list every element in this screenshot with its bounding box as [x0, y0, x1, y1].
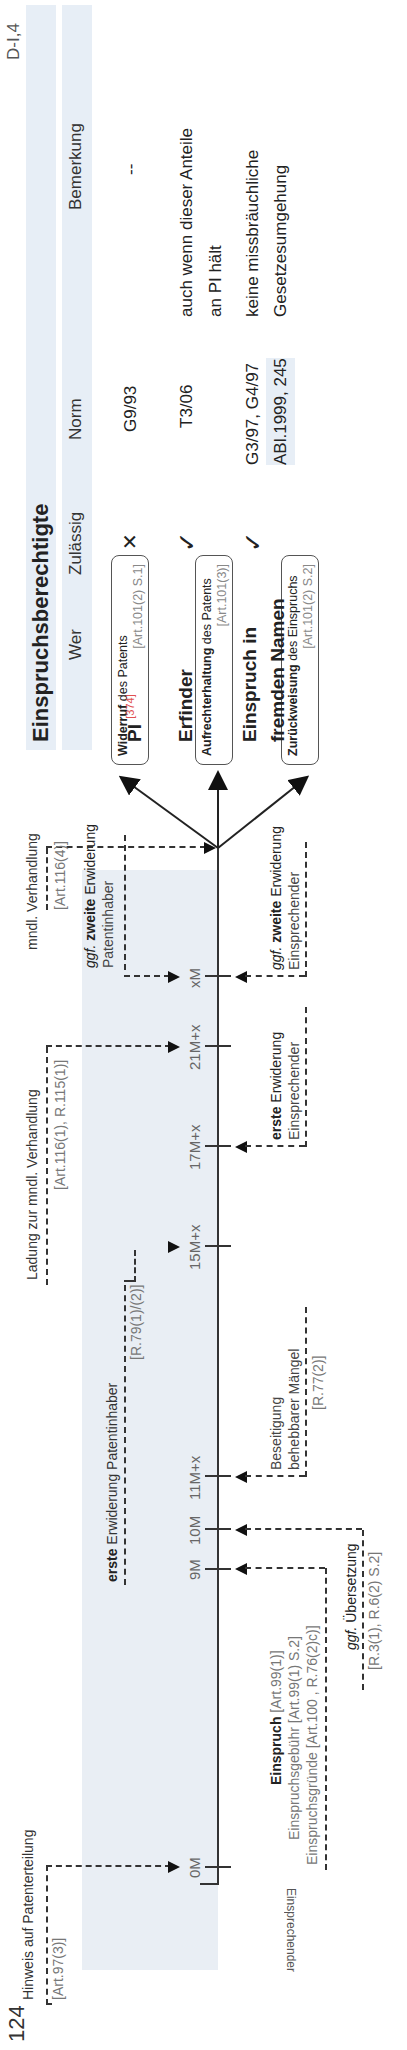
norm-cell: G3/97, G4/97: [238, 363, 267, 465]
header-wer: Wer: [66, 629, 86, 660]
page-number: 124: [4, 2005, 30, 2042]
hinweis-title: Hinweis auf Patenterteilung: [20, 1830, 37, 2000]
connector: [245, 1567, 325, 1569]
norm-cell-line2: ABl.1999, 245: [266, 358, 295, 465]
timeline-axis: [217, 847, 219, 1885]
ladung-title: Ladung zur mndl. Verhandlung: [24, 1089, 41, 1280]
arrow-up-icon: [235, 1524, 247, 1536]
arrow-up-icon: [235, 1141, 247, 1153]
arrow-down-icon: [168, 1041, 180, 1053]
connector: [46, 1865, 171, 1867]
table-row-pi: PI [374]: [116, 694, 149, 742]
lane-label-einsprechender: Einsprechender: [284, 1888, 298, 1972]
connector: [124, 1280, 134, 1282]
tick-15m: [205, 1245, 231, 1247]
checkmark-icon: ✓: [172, 532, 201, 552]
uebersetzung: ggf. Übersetzung: [343, 1543, 360, 1650]
connector: [245, 975, 305, 977]
tick-label: 10M: [186, 1516, 203, 1545]
connector: [305, 1307, 307, 1477]
timeline-start: [200, 1883, 218, 1885]
table-row-fremder-name-line2: fremden Namen: [264, 598, 292, 742]
erste-erwiderung-ein-line2: Einsprechender: [286, 1042, 303, 1140]
bemerkung-cell: keine missbräuchliche: [238, 150, 267, 317]
connector: [245, 1475, 305, 1477]
arrow-down-icon: [168, 1241, 180, 1253]
connector: [124, 1285, 126, 1585]
connector: [124, 835, 126, 970]
connector: [305, 842, 307, 977]
bemerkung-cell: auch wenn dieser Anteile: [172, 128, 201, 317]
connector: [325, 1568, 327, 1870]
zweite-erwiderung-pi-line2: Patentinhaber: [100, 881, 117, 968]
connector: [134, 1250, 136, 1282]
verhandlung-title: mndl. Verhandlung: [24, 833, 41, 950]
norm-cell: T3/06: [172, 385, 201, 428]
connector: [245, 1528, 362, 1530]
ladung-ref: [Art.116(1), R.115(1)]: [52, 1060, 69, 1190]
arrow-down-icon: [168, 971, 180, 983]
table-row-fremder-name: Einspruch in: [236, 627, 264, 742]
tick-label: 17M+x: [186, 1125, 203, 1170]
connector: [46, 1047, 48, 1285]
uebersetzung-ref: [R.3(1), R.6(2) S.2]: [366, 1552, 383, 1670]
erste-erwiderung-pi-ref: [R.79(1)/(2)]: [128, 1285, 145, 1360]
zweite-erwiderung-ein-line2: Einsprechender: [286, 872, 303, 970]
cross-icon: ✕: [116, 533, 145, 550]
connector: [46, 1045, 171, 1047]
tick-xm: [205, 975, 231, 977]
bemerkung-cell-line2: an PI hält: [201, 245, 230, 317]
connector: [245, 1145, 305, 1147]
connector: [305, 1007, 307, 1147]
beseitigung-ref: [R.77(2)]: [310, 1356, 327, 1410]
connector: [46, 848, 48, 910]
tick-9m: [205, 1568, 231, 1570]
section-ref: D-I,4: [4, 23, 24, 60]
tick-label: 9M: [186, 1559, 203, 1580]
erste-erwiderung-ein: erste Erwiderung: [268, 1032, 285, 1140]
connector: [124, 975, 170, 977]
header-bemerkung: Bemerkung: [66, 123, 86, 210]
tick-17m: [205, 1145, 231, 1147]
outcome-aufrechterhaltung: Aufrechterhaltung des Patents [Art.101(3…: [195, 555, 233, 765]
arrow-down-icon: [168, 1861, 180, 1873]
beseitigung-line2: behebbarer Mängel: [286, 1349, 303, 1470]
arrow-up-icon: [235, 1563, 247, 1575]
tick-0m: [205, 1866, 231, 1868]
table-row-erfinder: Erfinder: [172, 669, 200, 742]
tick-label: 11M+x: [186, 1456, 203, 1500]
table-title: Einspruchsberechtigte: [28, 504, 54, 742]
header-zulaessig: Zulässig: [66, 512, 86, 575]
hinweis-ref: [Art.97(3)]: [50, 1938, 67, 2000]
norm-cell: G9/93: [116, 386, 145, 432]
einspruch-line1: Einspruch [Art.99(1)]: [268, 1650, 285, 1785]
arrow-up-icon: [235, 1471, 247, 1483]
bemerkung-cell: --: [116, 164, 145, 175]
outcome-arrows: [100, 760, 330, 850]
rotated-page: 124 D-I,4 Patentinhaber Einsprechender 0…: [0, 0, 407, 2050]
bemerkung-cell-line2: Gesetzesumgehung: [266, 165, 295, 317]
tick-label: 0M: [186, 1857, 203, 1878]
verhandlung-ref: [Art.116(4)]: [52, 841, 69, 910]
tick-10m: [205, 1528, 231, 1530]
einspruch-line2: Einspruchsgebühr [Art.99(1) S.2]: [286, 1636, 303, 1840]
tick-21m: [205, 1045, 231, 1047]
connector: [362, 1530, 364, 1690]
erste-erwiderung-pi: erste Erwiderung Patentinhaber: [104, 1383, 121, 1582]
checkmark-icon: ✓: [238, 532, 267, 552]
connector: [46, 2003, 52, 2005]
connector: [46, 1865, 48, 2005]
tick-label: 21M+x: [186, 1025, 203, 1070]
tick-label: 15M+x: [186, 1225, 203, 1270]
tick-label: xM: [186, 968, 203, 988]
einspruch-line3: Einspruchsgründe [Art.100 , R.76(2)c)]: [304, 1625, 321, 1865]
tick-11m: [205, 1475, 231, 1477]
beseitigung-line1: Beseitigung: [268, 1397, 285, 1470]
header-norm: Norm: [66, 398, 86, 440]
arrow-up-icon: [235, 971, 247, 983]
